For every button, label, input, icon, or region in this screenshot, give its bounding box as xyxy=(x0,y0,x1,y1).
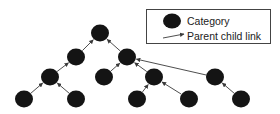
legend: Category Parent child link xyxy=(147,10,271,44)
parent-child-link xyxy=(107,39,120,51)
parent-child-link xyxy=(57,83,69,93)
category-node xyxy=(145,69,163,86)
category-node xyxy=(180,91,198,108)
category-node xyxy=(67,91,85,108)
parent-child-link xyxy=(135,63,147,72)
parent-child-link xyxy=(111,63,120,71)
category-node xyxy=(118,49,136,66)
category-node xyxy=(41,69,59,86)
category-node xyxy=(91,25,109,42)
parent-child-link xyxy=(162,82,181,94)
legend-category-label: Category xyxy=(187,15,230,27)
category-node xyxy=(128,91,146,108)
legend-category-icon xyxy=(163,14,181,29)
legend-link-label: Parent child link xyxy=(187,30,262,42)
category-node xyxy=(15,91,33,108)
parent-child-links xyxy=(31,39,234,94)
category-node xyxy=(206,69,224,86)
category-tree-diagram: Category Parent child link xyxy=(0,0,280,114)
parent-child-link xyxy=(82,40,93,51)
category-node xyxy=(95,69,113,86)
category-node xyxy=(232,91,250,108)
parent-child-link xyxy=(222,83,234,93)
parent-child-link xyxy=(57,63,68,72)
category-node xyxy=(67,49,85,66)
parent-child-link xyxy=(143,85,149,92)
parent-child-link xyxy=(31,83,43,93)
